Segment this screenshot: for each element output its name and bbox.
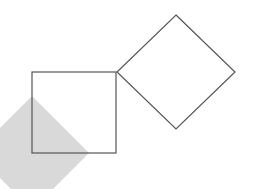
geometry-diagram — [0, 0, 255, 189]
shaded-diamond — [0, 96, 89, 189]
diamond-outline — [117, 15, 235, 129]
